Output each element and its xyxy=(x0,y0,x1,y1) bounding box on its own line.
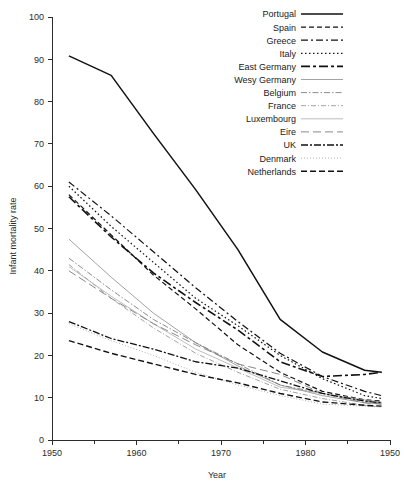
legend-label-italy[interactable]: Italy xyxy=(279,49,296,59)
legend-label-belgium[interactable]: Belgium xyxy=(263,88,296,98)
legend-label-eire[interactable]: Eire xyxy=(280,127,296,137)
x-axis: 19501960197019801950 xyxy=(42,440,400,458)
y-tick-label: 90 xyxy=(34,55,44,65)
chart-svg: 0102030405060708090100 19501960197019801… xyxy=(0,0,404,491)
legend-label-portugal[interactable]: Portugal xyxy=(262,9,296,19)
y-axis-title: Infant mortality rate xyxy=(8,197,18,274)
series-line-spain xyxy=(69,195,382,401)
legend-label-wesy-germany[interactable]: Wesy Germany xyxy=(234,75,296,85)
series-line-greece xyxy=(69,182,382,396)
legend-label-greece[interactable]: Greece xyxy=(266,36,296,46)
series-line-portugal xyxy=(69,56,382,372)
y-tick-label: 80 xyxy=(34,97,44,107)
y-axis: 0102030405060708090100 xyxy=(29,12,52,445)
x-tick-label: 1980 xyxy=(295,448,315,458)
series-line-denmark xyxy=(69,324,382,407)
legend-label-spain[interactable]: Spain xyxy=(273,23,296,33)
y-tick-label: 50 xyxy=(34,224,44,234)
y-tick-label: 100 xyxy=(29,12,44,22)
legend-label-france[interactable]: France xyxy=(268,101,296,111)
y-tick-label: 60 xyxy=(34,181,44,191)
series-line-france xyxy=(69,264,382,407)
x-axis-title: Year xyxy=(208,470,226,480)
legend-label-uk[interactable]: UK xyxy=(283,140,296,150)
y-tick-label: 0 xyxy=(39,435,44,445)
x-tick-label: 1950 xyxy=(42,448,62,458)
chart-legend: PortugalSpainGreeceItalyEast GermanyWesy… xyxy=(234,9,343,176)
x-tick-label: 1970 xyxy=(211,448,231,458)
series-line-east-germany xyxy=(69,197,382,377)
legend-label-netherlands[interactable]: Netherlands xyxy=(247,167,296,177)
infant-mortality-chart: 0102030405060708090100 19501960197019801… xyxy=(0,0,404,491)
y-tick-label: 40 xyxy=(34,266,44,276)
y-tick-label: 70 xyxy=(34,139,44,149)
x-tick-label: 1960 xyxy=(126,448,146,458)
y-tick-label: 10 xyxy=(34,393,44,403)
legend-label-denmark[interactable]: Denmark xyxy=(259,154,296,164)
y-tick-label: 30 xyxy=(34,308,44,318)
data-series-group xyxy=(69,56,382,407)
legend-label-luxembourg[interactable]: Luxembourg xyxy=(246,114,296,124)
legend-label-east-germany[interactable]: East Germany xyxy=(238,62,296,72)
x-tick-label: 1950 xyxy=(380,448,400,458)
y-tick-label: 20 xyxy=(34,351,44,361)
